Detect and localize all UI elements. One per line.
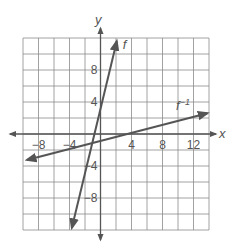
y-axis-label: y xyxy=(94,12,103,27)
x-tick-label: −8 xyxy=(32,138,46,152)
label-f_inverse: f−1 xyxy=(176,97,190,113)
x-tick-label: 4 xyxy=(128,138,135,152)
x-tick-label: 12 xyxy=(187,138,201,152)
y-tick-label: 8 xyxy=(91,63,98,77)
y-tick-label: 4 xyxy=(91,95,98,109)
y-tick-label: −8 xyxy=(84,191,98,205)
graph-f-and-inverse: ff−1 −8−4481284−4−8 x y xyxy=(0,0,239,249)
y-tick-label: −4 xyxy=(84,159,98,173)
x-tick-label: −4 xyxy=(63,138,77,152)
x-axis-label: x xyxy=(218,126,226,141)
x-tick-label: 8 xyxy=(159,138,166,152)
label-f: f xyxy=(123,37,128,52)
